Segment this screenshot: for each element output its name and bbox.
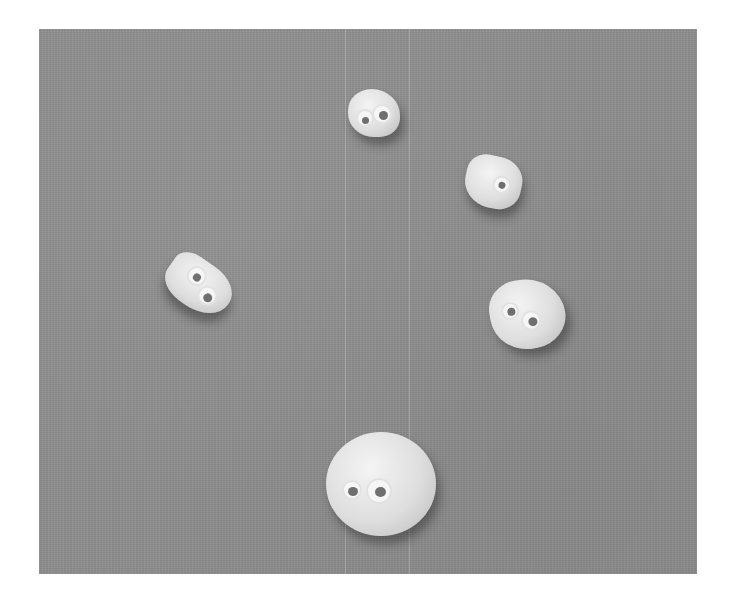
pupil xyxy=(201,292,214,305)
pupil xyxy=(528,316,538,326)
pupil xyxy=(507,307,516,316)
image-frame xyxy=(0,0,738,606)
pupil xyxy=(348,487,358,496)
pupil xyxy=(375,487,386,497)
googly-eye xyxy=(342,480,362,500)
stone-left xyxy=(157,245,242,324)
stone-top-center xyxy=(348,89,400,137)
pupil xyxy=(191,272,202,283)
pupil xyxy=(379,111,388,120)
photo xyxy=(39,29,697,574)
stone-bottom-large xyxy=(326,432,436,536)
googly-eye xyxy=(372,104,392,124)
pupil xyxy=(362,117,369,124)
googly-eye xyxy=(520,309,543,332)
stone-right xyxy=(484,273,570,355)
googly-eye xyxy=(500,301,521,322)
pupil xyxy=(498,181,506,189)
stone-upper-right xyxy=(460,151,527,214)
googly-eye xyxy=(366,478,392,504)
googly-eye xyxy=(491,174,512,195)
